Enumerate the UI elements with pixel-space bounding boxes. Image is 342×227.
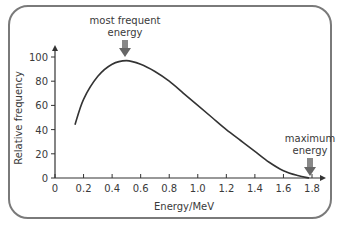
arrow-down-icon bbox=[119, 40, 131, 57]
spectrum-curve bbox=[75, 61, 309, 178]
x-tick-label: 1.2 bbox=[218, 183, 234, 194]
arrow-down-icon bbox=[304, 158, 316, 176]
x-tick-label: 1.0 bbox=[190, 183, 206, 194]
x-tick-label: 1.6 bbox=[275, 183, 291, 194]
y-tick-label: 0 bbox=[42, 173, 48, 184]
y-tick-label: 100 bbox=[29, 52, 48, 63]
x-tick-label: 0.4 bbox=[104, 183, 120, 194]
y-tick-label: 40 bbox=[35, 125, 48, 136]
y-axis-label: Relative frequency bbox=[13, 71, 24, 165]
x-tick-label: 1.4 bbox=[247, 183, 263, 194]
annotation-maximum-line1: maximum bbox=[285, 133, 335, 144]
annotation-most-frequent-line1: most frequent bbox=[90, 15, 161, 26]
y-tick-label: 60 bbox=[35, 100, 48, 111]
x-axis-arrow-icon bbox=[320, 175, 326, 181]
annotation-maximum-line2: energy bbox=[293, 145, 328, 156]
annotation-most-frequent-line2: energy bbox=[108, 27, 143, 38]
x-tick-label: 0.6 bbox=[133, 183, 149, 194]
x-tick-label: 1.8 bbox=[304, 183, 320, 194]
x-tick-label: 0 bbox=[52, 183, 58, 194]
x-axis-label: Energy/MeV bbox=[154, 201, 214, 212]
y-tick-label: 20 bbox=[35, 149, 48, 160]
y-tick-label: 80 bbox=[35, 76, 48, 87]
x-tick-label: 0.8 bbox=[161, 183, 177, 194]
y-axis-arrow-icon bbox=[52, 45, 58, 51]
chart: 00.20.40.60.81.01.21.41.61.8020406080100… bbox=[0, 0, 342, 227]
x-tick-label: 0.2 bbox=[76, 183, 92, 194]
